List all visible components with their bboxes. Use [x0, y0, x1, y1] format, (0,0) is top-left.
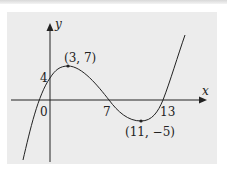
origin-label: 0 — [40, 105, 48, 119]
y-axis-label: y — [54, 17, 62, 31]
root-13-label: 13 — [160, 105, 175, 119]
min-point-marker — [139, 119, 142, 122]
root-7-label: 7 — [103, 105, 111, 119]
cubic-curve — [23, 35, 185, 160]
y-intercept-label: 4 — [40, 71, 48, 85]
min-point-label: (11, −5) — [125, 125, 175, 139]
y-axis-arrow-icon — [47, 23, 54, 31]
x-axis-label: x — [202, 84, 209, 98]
cubic-graph: y x 0 4 (3, 7) 7 13 (11, −5) — [0, 0, 227, 172]
max-point-label: (3, 7) — [64, 51, 96, 65]
